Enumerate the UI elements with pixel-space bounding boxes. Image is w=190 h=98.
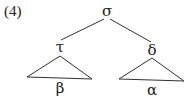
edge-root-to-right [110, 19, 151, 42]
root-node-label: σ [102, 2, 112, 20]
left-subtree-triangle [27, 56, 92, 79]
right-child-label: δ [147, 41, 156, 59]
example-number: (4) [4, 3, 22, 20]
right-subtree-label: α [147, 81, 157, 98]
syntax-tree-diagram: (4) σ τ δ β α [0, 0, 190, 98]
edge-root-to-left [61, 19, 104, 40]
left-subtree-label: β [56, 79, 65, 97]
left-child-label: τ [56, 38, 64, 56]
right-subtree-triangle [119, 58, 184, 81]
